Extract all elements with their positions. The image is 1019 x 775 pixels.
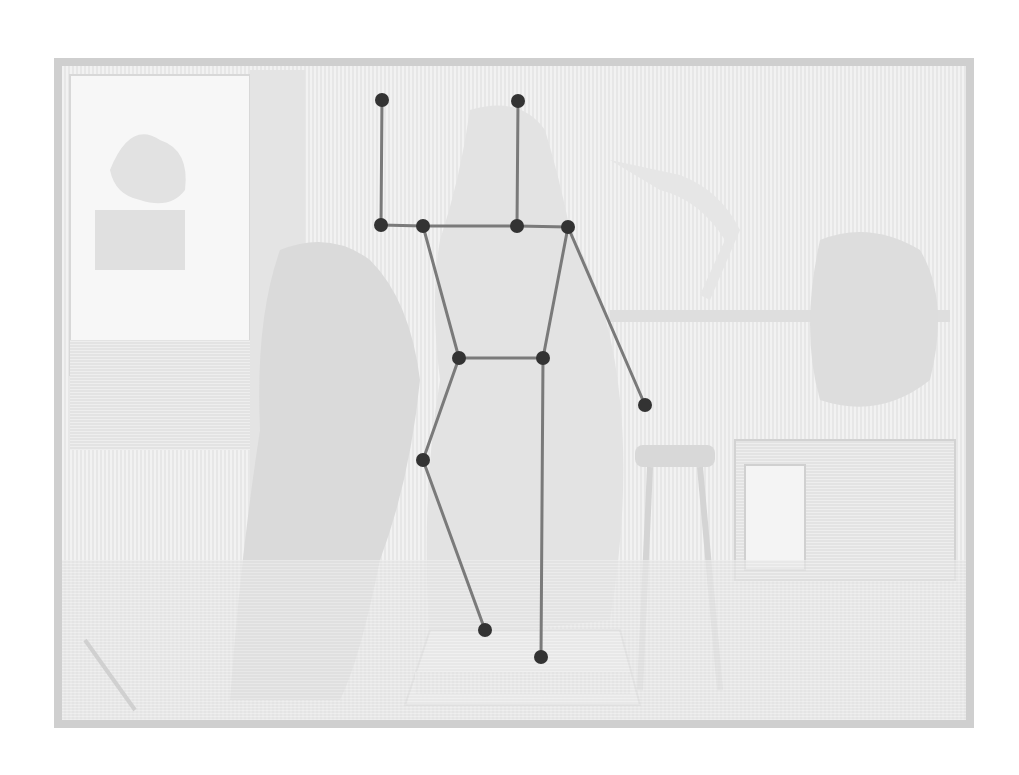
pose-annotated-engraving	[0, 0, 1019, 775]
keypoint-left-ankle	[478, 623, 492, 637]
keypoint-head-top	[511, 94, 525, 108]
engraving-canvas	[0, 0, 1019, 775]
keypoint-right-ankle	[534, 650, 548, 664]
keypoint-left-shoulder-outer	[374, 218, 388, 232]
crate-panel	[745, 465, 805, 570]
keypoint-left-hip	[452, 351, 466, 365]
floor	[62, 560, 966, 720]
keypoint-right-hip	[536, 351, 550, 365]
skeleton-edge	[517, 101, 518, 226]
skeleton-edge	[541, 358, 543, 657]
keypoint-right-wrist	[638, 398, 652, 412]
engraving-artwork	[58, 62, 970, 724]
balustrade	[70, 340, 250, 450]
bust-sculpture	[810, 232, 938, 407]
keypoint-right-shoulder	[561, 220, 575, 234]
skeleton-edge	[381, 100, 382, 225]
keypoint-neck	[510, 219, 524, 233]
keypoint-left-shoulder	[416, 219, 430, 233]
statue-pedestal	[95, 210, 185, 270]
stool-top	[635, 445, 715, 467]
skeleton-edge	[517, 226, 568, 227]
keypoint-left-hand-raised	[375, 93, 389, 107]
keypoint-left-knee	[416, 453, 430, 467]
